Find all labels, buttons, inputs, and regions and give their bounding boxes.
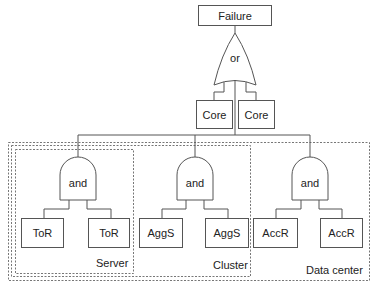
tor-event-1: ToR bbox=[21, 218, 64, 248]
or-gate-label: or bbox=[225, 53, 245, 64]
cluster-region bbox=[12, 146, 251, 277]
accr-event-1: AccR bbox=[253, 218, 298, 248]
and-gate-label-cluster: and bbox=[181, 178, 209, 189]
tor-event-2: ToR bbox=[88, 218, 130, 248]
failure-event: Failure bbox=[198, 5, 272, 26]
and-gate-label-server: and bbox=[64, 178, 92, 189]
and-gate-label-datacenter: and bbox=[296, 178, 324, 189]
data-center-region-label: Data center bbox=[306, 264, 363, 276]
server-region-label: Server bbox=[96, 257, 128, 269]
core-event-2: Core bbox=[238, 100, 275, 129]
core-event-1: Core bbox=[196, 100, 233, 129]
cluster-region-label: Cluster bbox=[213, 259, 248, 271]
aggs-event-2: AggS bbox=[205, 218, 249, 248]
accr-event-2: AccR bbox=[320, 218, 363, 248]
aggs-event-1: AggS bbox=[139, 218, 183, 248]
